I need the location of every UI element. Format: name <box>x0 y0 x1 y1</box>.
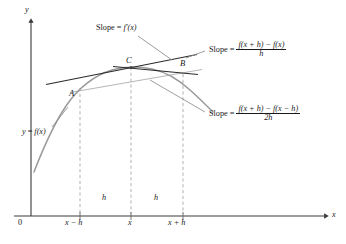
y-axis-label: y <box>25 6 29 14</box>
interval-label-right-h: h <box>154 194 158 202</box>
x-tick-label-x: x <box>128 219 132 227</box>
point-label-c: C <box>126 56 132 65</box>
annotation-central-slope-word: Slope <box>209 109 228 118</box>
curve-label-function: f(x) <box>34 127 45 136</box>
point-label-b: B <box>180 59 185 68</box>
annotation-tangent-slope-word: Slope <box>96 23 115 32</box>
annotation-forward-equals: = <box>230 45 235 54</box>
annotation-forward-denominator: h <box>236 50 286 58</box>
annotation-forward-fraction: f(x + h) − f(x) h <box>236 41 286 58</box>
secant-forward-difference <box>113 67 198 75</box>
leader-line-forward-difference <box>186 51 205 58</box>
annotation-tangent-slope: Slope = f'(x) <box>96 24 137 32</box>
annotation-central-difference-slope: Slope = f(x + h) − f(x − h) 2h <box>209 105 300 122</box>
annotation-central-denominator: 2h <box>236 114 300 122</box>
curve-label-variable: y <box>22 127 26 136</box>
annotation-central-fraction: f(x + h) − f(x − h) 2h <box>236 105 300 122</box>
point-c-marker <box>130 66 133 69</box>
leader-line-tangent <box>138 36 172 60</box>
curve-label-equals: = <box>28 127 33 136</box>
leader-line-curve-label <box>52 107 68 127</box>
annotation-tangent-expression: f'(x) <box>123 23 136 32</box>
annotation-forward-slope-word: Slope <box>209 45 228 54</box>
x-axis-label: x <box>332 211 336 219</box>
origin-label: 0 <box>18 219 22 227</box>
curve-label: y = f(x) <box>22 128 46 136</box>
point-label-a: A <box>69 89 74 98</box>
interval-label-left-h: h <box>102 194 106 202</box>
x-tick-label-x-minus-h: x − h <box>65 219 82 227</box>
annotation-forward-difference-slope: Slope = f(x + h) − f(x) h <box>209 41 286 58</box>
annotation-central-equals: = <box>230 109 235 118</box>
annotation-tangent-equals: = <box>117 23 122 32</box>
tangent-line-at-c <box>46 55 197 85</box>
x-tick-label-x-plus-h: x + h <box>168 219 185 227</box>
